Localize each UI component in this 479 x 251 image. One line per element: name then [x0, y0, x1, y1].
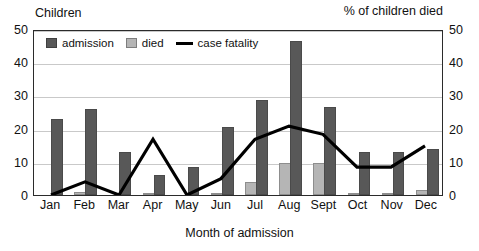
y-tick-label: 20 — [449, 124, 475, 137]
legend-swatch-admission — [46, 38, 57, 48]
y-tick-label: 0 — [449, 190, 475, 203]
x-tick-label: Nov — [375, 199, 409, 212]
y-tick-label: 40 — [449, 57, 475, 70]
x-tick-label: Oct — [341, 199, 375, 212]
legend-label-died: died — [142, 37, 164, 49]
y-tick-label: 20 — [2, 124, 28, 137]
chart-container: Children % of children died 50403020100 … — [0, 0, 479, 251]
y-left-axis-title: Children — [35, 6, 82, 20]
y-tick-label: 30 — [2, 90, 28, 103]
y-tick-label: 10 — [2, 157, 28, 170]
x-tick-label: Jun — [204, 199, 238, 212]
x-tick-label: Jan — [33, 199, 67, 212]
x-tick-label: Jul — [238, 199, 272, 212]
y-tick-label: 50 — [2, 24, 28, 37]
y-tick-label: 0 — [2, 190, 28, 203]
x-tick-label: Sept — [306, 199, 340, 212]
case-fatality-line — [34, 31, 442, 195]
y-tick-label: 50 — [449, 24, 475, 37]
x-tick-label: May — [170, 199, 204, 212]
x-tick-label: Apr — [136, 199, 170, 212]
x-tick-label: Aug — [272, 199, 306, 212]
legend-label-admission: admission — [62, 37, 114, 49]
y-right-axis-title: % of children died — [344, 4, 443, 18]
chart-legend: admission died case fatality — [46, 37, 265, 49]
y-tick-label: 40 — [2, 57, 28, 70]
plot-area — [33, 30, 443, 196]
y-tick-label: 10 — [449, 157, 475, 170]
x-tick-label: Dec — [409, 199, 443, 212]
x-tick-label: Feb — [67, 199, 101, 212]
y-tick-label: 30 — [449, 90, 475, 103]
legend-swatch-died — [126, 38, 137, 48]
legend-label-case-fatality: case fatality — [198, 37, 259, 49]
legend-swatch-case-fatality — [176, 42, 193, 45]
x-tick-label: Mar — [101, 199, 135, 212]
x-axis-title: Month of admission — [0, 226, 479, 240]
